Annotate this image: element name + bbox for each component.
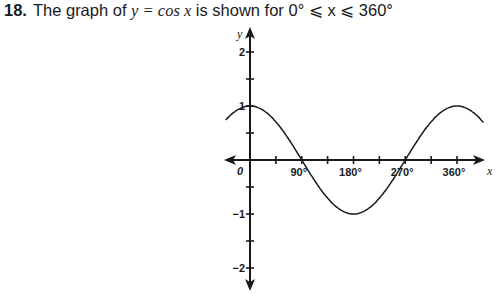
- x-tick-label: 90°: [290, 166, 307, 178]
- cosine-graph: 090°180°270°360°21−1−2yx: [0, 0, 498, 304]
- x-tick-label: 180°: [339, 166, 362, 178]
- x-tick-label: 270°: [391, 166, 414, 178]
- y-tick-label: 2: [239, 46, 245, 58]
- y-tick-label: −2: [232, 262, 245, 274]
- y-tick-label: 1: [239, 100, 245, 112]
- y-axis-label: y: [236, 27, 243, 41]
- x-tick-label: 360°: [443, 166, 466, 178]
- x-axis-label: x: [486, 164, 493, 178]
- origin-label: 0: [237, 165, 244, 177]
- y-tick-label: −1: [232, 208, 245, 220]
